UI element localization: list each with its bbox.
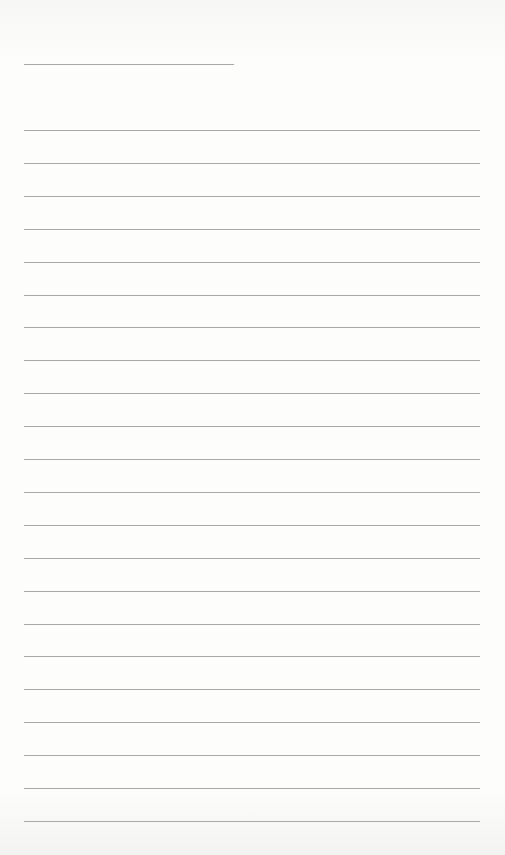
ruled-line [24, 656, 480, 657]
ruled-line [24, 525, 480, 526]
ruled-line [24, 722, 480, 723]
ruled-line [24, 788, 480, 789]
ruled-line [24, 755, 480, 756]
ruled-line [24, 393, 480, 394]
lined-paper-page [0, 0, 505, 855]
ruled-line [24, 130, 480, 131]
ruled-line [24, 624, 480, 625]
ruled-line [24, 821, 480, 822]
name-line [24, 64, 234, 65]
ruled-line [24, 229, 480, 230]
ruled-line [24, 196, 480, 197]
ruled-line [24, 262, 480, 263]
ruled-line [24, 558, 480, 559]
ruled-line [24, 459, 480, 460]
ruled-line [24, 426, 480, 427]
ruled-line [24, 360, 480, 361]
ruled-line [24, 591, 480, 592]
ruled-line [24, 492, 480, 493]
ruled-line [24, 163, 480, 164]
ruled-line [24, 327, 480, 328]
ruled-line [24, 689, 480, 690]
ruled-line [24, 295, 480, 296]
